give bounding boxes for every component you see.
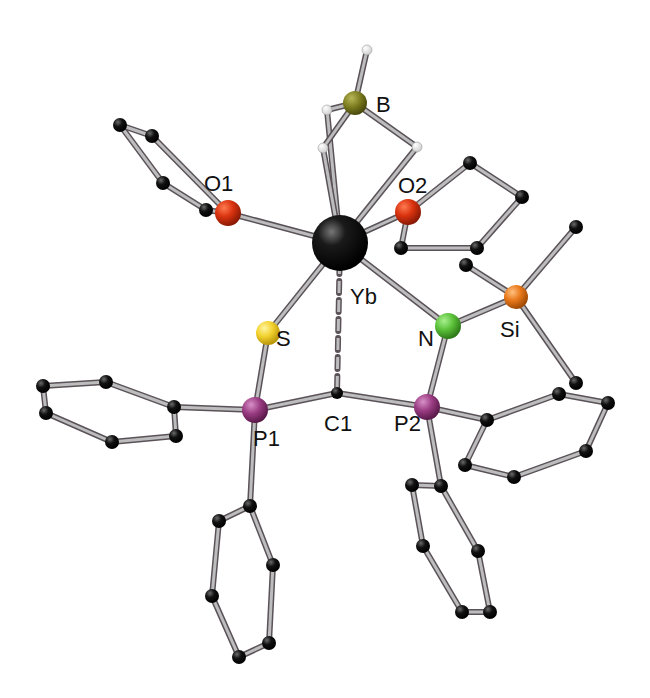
- atom-ph2d: [232, 650, 246, 664]
- atom-ph3c: [601, 396, 615, 410]
- bond-highlight: [46, 413, 112, 442]
- atom-o2: [395, 199, 421, 225]
- atom-sime2: [459, 258, 473, 272]
- atom-n: [435, 313, 461, 339]
- atom-ph4a: [434, 479, 448, 493]
- atom-ph2b: [212, 514, 226, 528]
- atom-si: [504, 285, 528, 309]
- atom-ph1f: [169, 429, 183, 443]
- label-C1: C1: [324, 411, 352, 436]
- atom-ph2f: [266, 558, 280, 572]
- label-B: B: [376, 92, 391, 117]
- bond-highlight: [514, 451, 586, 477]
- bond-highlight: [412, 485, 423, 546]
- bond-highlight: [250, 506, 273, 565]
- label-O2: O2: [398, 173, 427, 198]
- atom-ph4c: [416, 539, 430, 553]
- bond-highlight: [487, 394, 559, 420]
- atom-ph3b: [552, 387, 566, 401]
- bond-highlight: [337, 393, 427, 407]
- label-P2: P2: [394, 411, 421, 436]
- bond-highlight: [423, 546, 462, 612]
- label-S: S: [276, 326, 291, 351]
- atom-ph3f: [458, 458, 472, 472]
- label-Yb: Yb: [350, 284, 377, 309]
- atom-ph4f: [471, 544, 485, 558]
- atom-yb: [312, 215, 368, 271]
- atom-o2c1: [394, 241, 408, 255]
- atom-o1c4: [145, 129, 159, 143]
- bond-highlight: [516, 297, 576, 383]
- atom-ph2e: [262, 636, 276, 650]
- label-P1: P1: [253, 426, 280, 451]
- atom-o1c3: [113, 118, 127, 132]
- label-Si: Si: [500, 317, 520, 342]
- atom-ph1e: [105, 435, 119, 449]
- atom-o1: [215, 200, 241, 226]
- bond-highlight: [470, 163, 522, 197]
- bond-highlight: [465, 465, 514, 477]
- bond-highlight: [212, 596, 239, 657]
- atom-h2: [322, 105, 332, 115]
- bond-highlight: [516, 227, 576, 297]
- atom-b: [343, 91, 367, 115]
- atom-o1c2: [156, 176, 170, 190]
- ball-and-stick-model: B O1 O2 Yb S N Si P1 C1 P2: [0, 0, 650, 698]
- atom-sime3: [569, 376, 583, 390]
- atom-ph4d: [455, 605, 469, 619]
- atoms-layer: [36, 45, 615, 664]
- atom-o2c3: [515, 190, 529, 204]
- atom-h3: [318, 143, 328, 153]
- label-O1: O1: [204, 171, 233, 196]
- atom-ph3d: [579, 444, 593, 458]
- atom-h4: [412, 142, 422, 152]
- atom-ph2c: [205, 589, 219, 603]
- bond-highlight: [477, 197, 522, 248]
- atom-ph1a: [167, 400, 181, 414]
- atom-ph1b: [99, 375, 113, 389]
- bond-highlight: [465, 420, 487, 465]
- atom-ph1c: [36, 379, 50, 393]
- molecular-structure-diagram: B O1 O2 Yb S N Si P1 C1 P2: [0, 0, 650, 698]
- atom-ph3a: [480, 413, 494, 427]
- atom-c1: [331, 387, 343, 399]
- bond-highlight: [478, 551, 490, 612]
- atom-ph2a: [243, 499, 257, 513]
- bond-highlight: [586, 403, 608, 451]
- atom-o2c2: [470, 241, 484, 255]
- bond-highlight: [559, 394, 608, 403]
- atom-o1c1: [199, 203, 213, 217]
- label-N: N: [418, 326, 434, 351]
- atom-sime1: [569, 220, 583, 234]
- atom-p1: [242, 397, 268, 423]
- atom-h1: [362, 45, 372, 55]
- atom-ph4e: [483, 605, 497, 619]
- atom-ph1d: [39, 406, 53, 420]
- bonds-layer: [43, 50, 608, 657]
- atom-ph3e: [507, 470, 521, 484]
- atom-ph4b: [405, 478, 419, 492]
- atom-o2c4: [463, 156, 477, 170]
- bond-highlight: [441, 486, 478, 551]
- bond-highlight: [106, 382, 174, 407]
